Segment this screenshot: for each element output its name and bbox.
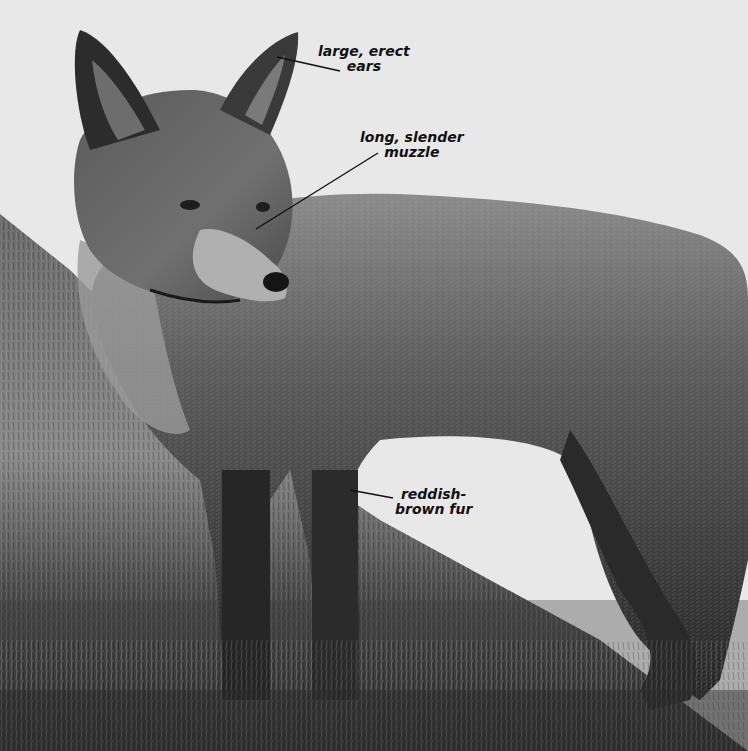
fox-eye-left xyxy=(180,200,200,210)
annotation-muzzle-line-1: long, slender xyxy=(360,130,464,145)
annotation-muzzle-line-2: muzzle xyxy=(360,145,464,160)
annotation-ears-line-1: large, erect xyxy=(318,44,410,59)
fox-photo xyxy=(0,0,748,751)
fox-photo-figure: large, erect ears long, slender muzzle r… xyxy=(0,0,748,751)
annotation-ears: large, erect ears xyxy=(318,44,410,74)
annotation-ears-line-2: ears xyxy=(318,59,410,74)
fox-eye-right xyxy=(256,202,270,212)
annotation-muzzle: long, slender muzzle xyxy=(360,130,464,160)
fox-nose xyxy=(263,272,289,292)
annotation-fur-line-2: brown fur xyxy=(395,502,472,517)
annotation-fur: reddish- brown fur xyxy=(395,487,472,517)
annotation-fur-line-1: reddish- xyxy=(395,487,472,502)
